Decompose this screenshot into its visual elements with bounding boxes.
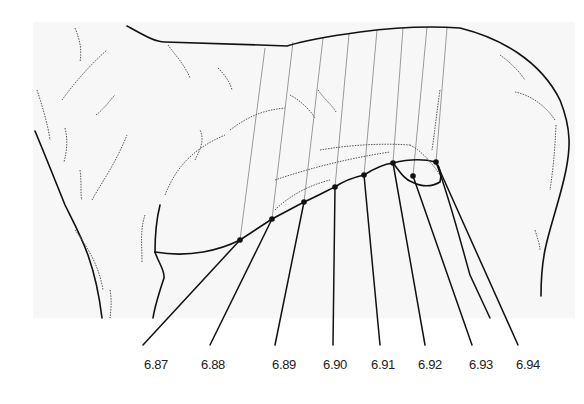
- label-6-93: 6.93: [469, 357, 493, 372]
- label-6-91: 6.91: [371, 357, 395, 372]
- label-6-92: 6.92: [418, 357, 442, 372]
- hatching: [37, 28, 556, 318]
- label-6-87: 6.87: [144, 357, 168, 372]
- guide-lines: [240, 27, 447, 240]
- anatomical-line-drawing: [0, 0, 584, 404]
- label-6-89: 6.89: [272, 357, 296, 372]
- label-6-90: 6.90: [323, 357, 347, 372]
- outlines: [35, 26, 569, 318]
- label-6-88: 6.88: [201, 357, 225, 372]
- anatomical-figure: 6.87 6.88 6.89 6.90 6.91 6.92 6.93 6.94: [0, 0, 584, 404]
- label-6-94: 6.94: [516, 357, 540, 372]
- reference-points: [237, 159, 439, 243]
